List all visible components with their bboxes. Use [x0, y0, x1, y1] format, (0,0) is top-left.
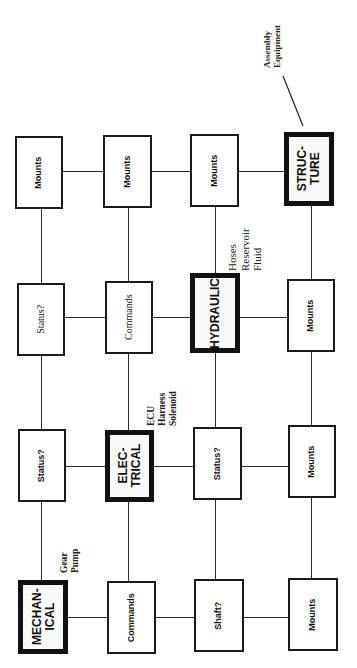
box-label: ELEC- TRICAL: [117, 444, 142, 488]
row-connector-electrical: [42, 466, 312, 467]
box-mechanical-commands: Commands: [107, 581, 156, 654]
annotation-hydraulic: Hoses Reservoir Fluid: [226, 228, 264, 271]
box-label: Status?: [213, 447, 222, 480]
annotation-structure: Assembly Equipment: [262, 25, 283, 68]
box-label: HYDRAULIC: [209, 278, 222, 349]
row-connector-hydraulic: [41, 317, 311, 318]
box-hydraulic-mounts: Mounts: [287, 279, 335, 352]
box-label: Status?: [37, 449, 46, 482]
box-label: Mounts: [307, 446, 316, 478]
column-connector-4: [311, 169, 312, 615]
annotation-electrical: ECU Harness Solenoid: [146, 391, 179, 426]
row-connector-mechanical: [43, 617, 313, 618]
box-structure: STRUC- TURE: [284, 132, 334, 206]
box-label: Shaft?: [214, 602, 223, 630]
box-label: Commands: [127, 593, 136, 642]
box-hydraulic-commands: Commands: [105, 281, 153, 354]
row-connector-structure: [39, 171, 311, 172]
box-mechanical-shaft: Shaft?: [194, 579, 244, 652]
box-label: STRUC- TURE: [296, 146, 321, 191]
box-structure-mounts-3: Mounts: [190, 134, 239, 207]
subsystem-interaction-diagram: MECHAN- ICAL Commands Shaft? Mounts Stat…: [0, 0, 357, 668]
box-label: Mounts: [123, 156, 132, 188]
box-label: Mounts: [308, 599, 317, 631]
box-label: MECHAN- ICAL: [30, 589, 55, 646]
box-label: Mounts: [210, 155, 219, 187]
column-connector-2: [128, 171, 129, 617]
box-electrical-mounts: Mounts: [288, 425, 336, 498]
box-mechanical-mounts: Mounts: [288, 578, 338, 651]
box-label: Mounts: [34, 157, 43, 189]
annotation-mechanical: Gear Pump: [59, 549, 81, 573]
column-connector-3: [215, 171, 216, 617]
box-structure-mounts-2: Mounts: [103, 135, 152, 208]
box-label: Status?: [36, 305, 47, 334]
box-electrical: ELEC- TRICAL: [105, 430, 154, 502]
box-electrical-status-1: Status?: [18, 429, 66, 502]
box-label: Mounts: [306, 300, 315, 332]
box-mechanical: MECHAN- ICAL: [18, 580, 68, 654]
column-connector-1: [41, 171, 42, 617]
box-hydraulic-status: Status?: [17, 283, 65, 356]
box-hydraulic: HYDRAULIC: [190, 273, 240, 353]
box-electrical-status-2: Status?: [193, 427, 242, 500]
box-structure-mounts-1: Mounts: [15, 136, 63, 209]
box-label: Commands: [124, 295, 135, 341]
